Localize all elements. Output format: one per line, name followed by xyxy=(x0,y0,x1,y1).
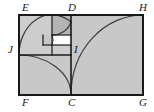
vertex-label-C: C xyxy=(68,97,75,108)
vertex-label-G: G xyxy=(139,97,147,108)
vertex-label-I: I xyxy=(74,44,78,55)
region-right-rectangle xyxy=(71,15,143,95)
region-lower-left-square xyxy=(19,55,71,95)
vertex-label-H: H xyxy=(139,2,147,13)
geometry-figure: E D H J I F C G xyxy=(0,0,154,112)
region-tiny-shaded-square xyxy=(43,35,52,45)
region-inner-small-square xyxy=(52,15,71,35)
vertex-label-E: E xyxy=(22,2,29,13)
region-tiny-white-square xyxy=(52,35,71,45)
vertex-label-J: J xyxy=(8,44,13,55)
vertex-label-D: D xyxy=(68,2,76,13)
vertex-label-F: F xyxy=(22,97,29,108)
